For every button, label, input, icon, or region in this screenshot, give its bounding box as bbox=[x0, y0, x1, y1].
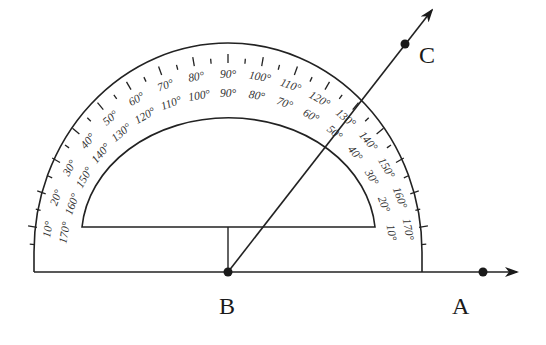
tick-mark bbox=[48, 176, 53, 178]
degree-label: 170° bbox=[56, 220, 72, 244]
tick-mark bbox=[262, 57, 264, 66]
degree-label: 100° bbox=[248, 69, 272, 85]
tick-mark bbox=[176, 65, 177, 70]
tick-mark bbox=[365, 118, 369, 122]
label-a: A bbox=[452, 293, 470, 319]
degree-label: 160° bbox=[62, 191, 81, 216]
tick-mark bbox=[72, 128, 79, 134]
point-c bbox=[401, 40, 410, 49]
degree-label: 110° bbox=[279, 76, 303, 95]
tick-mark bbox=[65, 145, 69, 148]
degree-label: 70° bbox=[275, 94, 295, 111]
degree-label: 80° bbox=[248, 88, 266, 103]
tick-mark bbox=[114, 95, 117, 99]
degree-label: 60° bbox=[126, 89, 146, 108]
tick-mark bbox=[144, 77, 146, 82]
degree-label: 30° bbox=[362, 166, 381, 187]
label-c: C bbox=[419, 42, 435, 68]
degree-label: 20° bbox=[47, 188, 64, 208]
tick-mark bbox=[193, 57, 195, 66]
degree-label: 60° bbox=[301, 106, 321, 125]
tick-mark bbox=[377, 128, 384, 134]
tick-mark bbox=[294, 67, 297, 75]
degree-label: 10° bbox=[385, 224, 400, 242]
tick-mark bbox=[339, 95, 342, 99]
tick-mark bbox=[98, 103, 104, 110]
tick-mark bbox=[36, 209, 41, 210]
degree-label: 10° bbox=[40, 220, 55, 238]
degree-label: 90° bbox=[220, 87, 237, 99]
tick-mark bbox=[404, 176, 409, 178]
degree-label: 40° bbox=[346, 143, 366, 163]
label-b: B bbox=[219, 293, 235, 319]
tick-mark bbox=[87, 118, 91, 122]
tick-mark bbox=[415, 209, 420, 210]
tick-mark bbox=[278, 65, 279, 70]
ray-bc bbox=[228, 10, 432, 272]
degree-label: 120° bbox=[132, 104, 157, 126]
degree-label: 70° bbox=[156, 76, 176, 93]
degree-label: 120° bbox=[307, 88, 332, 110]
degree-label: 20° bbox=[376, 194, 393, 214]
degree-label: 170° bbox=[401, 217, 417, 241]
tick-mark bbox=[127, 82, 132, 90]
tick-mark bbox=[387, 145, 391, 148]
degree-label: 130° bbox=[109, 120, 134, 143]
protractor-diagram: 10°20°30°40°50°60°70°80°90°100°110°120°1… bbox=[0, 0, 546, 345]
degree-label: 90° bbox=[220, 68, 237, 80]
tick-mark bbox=[310, 77, 312, 82]
degree-label: 100° bbox=[187, 87, 211, 103]
degree-label: 150° bbox=[73, 165, 95, 190]
degree-label: 50° bbox=[100, 108, 120, 128]
degree-label: 80° bbox=[187, 69, 205, 84]
point-a bbox=[479, 268, 488, 277]
degree-label: 160° bbox=[391, 185, 410, 210]
degree-label: 40° bbox=[78, 131, 98, 151]
point-b bbox=[224, 268, 233, 277]
degree-label: 110° bbox=[159, 93, 183, 112]
tick-mark bbox=[159, 67, 162, 75]
degree-label: 30° bbox=[59, 158, 78, 179]
tick-mark bbox=[325, 82, 330, 90]
